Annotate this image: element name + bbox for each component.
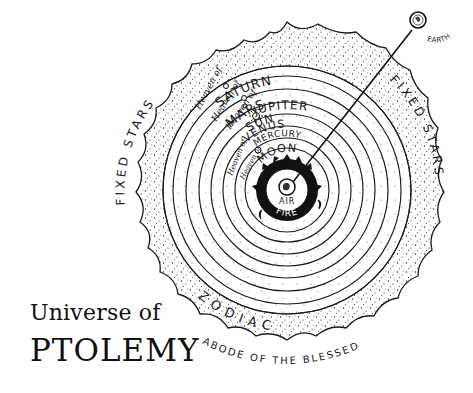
label-abode-of-the-blessed: ABODE OF THE BLESSED: [201, 335, 361, 366]
label-air: AIR: [279, 197, 295, 206]
caption-line-1: Universe of: [30, 300, 161, 325]
label-earth: EARTH: [426, 32, 452, 45]
caption-title: PTOLEMY: [30, 332, 199, 368]
earth-marker: [410, 12, 426, 28]
